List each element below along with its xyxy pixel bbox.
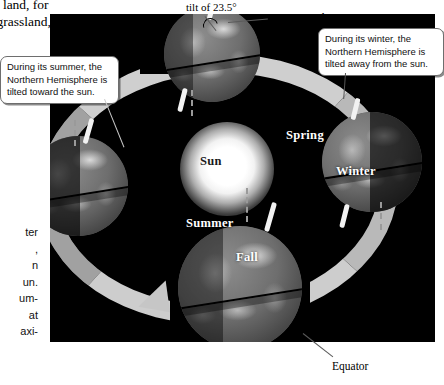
axis-vertical-reference-summer bbox=[74, 120, 76, 146]
body-text-top: on land, for t, grassland, bbox=[0, 0, 51, 30]
tilt-angle-label: tilt of 23.5° bbox=[186, 1, 237, 15]
earth-globe-winter bbox=[322, 112, 422, 212]
body-text-left-line-4: un. bbox=[0, 274, 38, 291]
body-text-left-line-6: at bbox=[0, 307, 38, 324]
globe-night-side bbox=[164, 14, 193, 102]
axis-vertical-reference-winter bbox=[380, 202, 382, 230]
body-text-left-line-5: um- bbox=[0, 290, 38, 307]
season-label-winter: Winter bbox=[336, 164, 376, 179]
season-label-summer: Summer bbox=[186, 216, 234, 231]
axis-vertical-reference-spring bbox=[191, 90, 193, 116]
season-label-fall: Fall bbox=[236, 250, 258, 265]
globe-night-side bbox=[370, 112, 422, 212]
body-text-left-line-1: ter bbox=[0, 224, 38, 241]
body-text-top-line-1: on land, for bbox=[0, 0, 51, 13]
axis-annotation-line-1: Axis around bbox=[268, 12, 325, 26]
body-text-top-line-2: t, grassland, bbox=[0, 13, 51, 30]
globe-night-side bbox=[50, 136, 80, 236]
axis-annotation-line-3: rotates bbox=[268, 39, 325, 53]
body-text-left-line-2: , bbox=[0, 241, 38, 258]
callout-winter: During its winter, the Northern Hemisphe… bbox=[318, 28, 444, 76]
equator-label: Equator bbox=[332, 360, 368, 374]
body-text-left-column: ter , n un. um- at axi- bbox=[0, 224, 38, 340]
globe-night-side bbox=[178, 226, 223, 342]
callout-summer: During its summer, the Northern Hemisphe… bbox=[0, 56, 119, 104]
axis-vertical-reference-fall bbox=[246, 188, 248, 222]
body-text-left-line-3: n bbox=[0, 257, 38, 274]
earth-globe-fall bbox=[178, 226, 302, 342]
axis-annotation-line-2: which Earth bbox=[268, 26, 325, 40]
body-text-left-line-7: axi- bbox=[0, 323, 38, 340]
axis-annotation: Axis around which Earth rotates bbox=[268, 12, 325, 53]
sun-label: Sun bbox=[200, 154, 222, 169]
season-label-spring: Spring bbox=[286, 128, 324, 143]
sun-glow bbox=[180, 122, 274, 216]
